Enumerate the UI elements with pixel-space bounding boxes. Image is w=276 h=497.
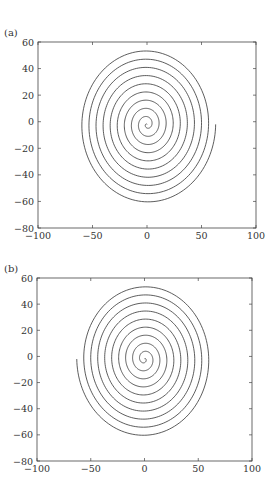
spiral-chart-a: (a)−100−50050100−80−60−40−200204060: [0, 0, 276, 250]
y-tick-label: −60: [14, 196, 34, 207]
y-tick-label: 0: [27, 351, 33, 362]
y-tick-label: −20: [13, 377, 33, 388]
x-tick-label: −50: [81, 463, 101, 474]
y-tick-label: 40: [22, 63, 34, 74]
chart-panel-b: (b)−100−50050100−80−60−40−200204060: [0, 250, 276, 497]
x-tick-label: 0: [141, 463, 147, 474]
y-tick-label: 0: [28, 116, 34, 127]
x-tick-label: −50: [82, 230, 102, 241]
x-tick-label: 50: [192, 463, 204, 474]
y-tick-label: −40: [14, 169, 34, 180]
y-tick-label: 20: [21, 325, 33, 336]
axes-box: [38, 42, 256, 228]
spiral-chart-b: (b)−100−50050100−80−60−40−200204060: [0, 250, 276, 497]
x-tick-label: 100: [243, 463, 261, 474]
y-tick-label: 20: [22, 90, 34, 101]
y-tick-label: −60: [13, 429, 33, 440]
y-tick-label: 40: [21, 299, 33, 310]
y-tick-label: −20: [14, 143, 34, 154]
y-tick-label: −40: [13, 403, 33, 414]
x-tick-label: 50: [195, 230, 207, 241]
x-tick-label: 0: [144, 230, 150, 241]
y-tick-label: −80: [14, 223, 34, 234]
chart-panel-a: (a)−100−50050100−80−60−40−200204060: [0, 0, 276, 254]
spiral-line: [77, 287, 209, 435]
y-tick-label: 60: [21, 273, 33, 284]
y-tick-label: 60: [22, 37, 34, 48]
y-tick-label: −80: [13, 456, 33, 467]
panel-label: (b): [4, 263, 18, 274]
spiral-line: [82, 51, 216, 202]
x-tick-label: 100: [247, 230, 265, 241]
axes-box: [37, 278, 252, 461]
panel-label: (a): [4, 27, 18, 38]
